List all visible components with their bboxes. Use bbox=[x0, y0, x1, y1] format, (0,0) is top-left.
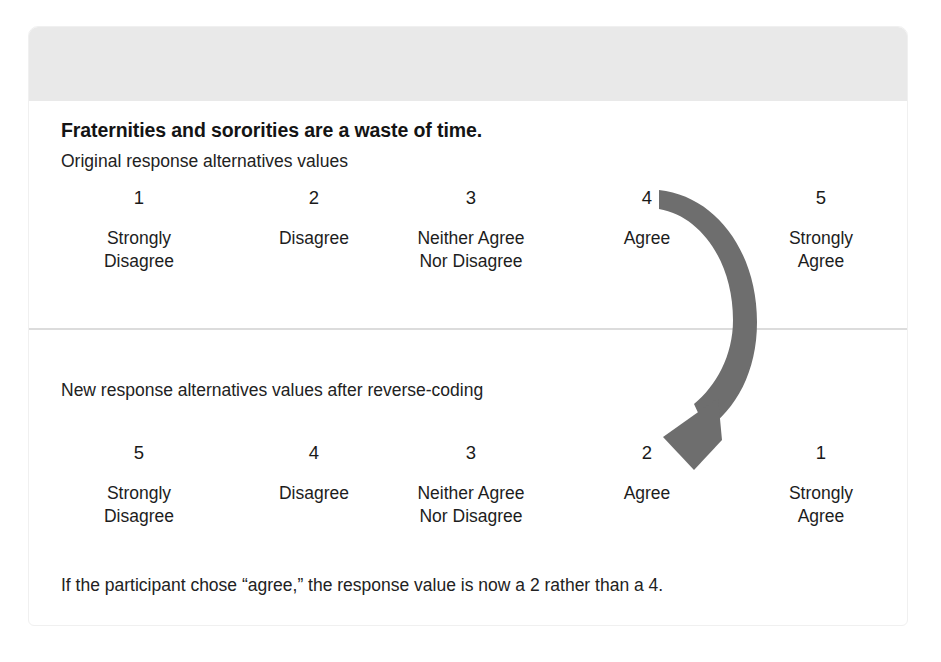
original-coding-section: Fraternities and sororities are a waste … bbox=[29, 101, 907, 328]
footnote-text: If the participant chose “agree,” the re… bbox=[61, 575, 663, 596]
anchor-line-1: Strongly bbox=[721, 482, 921, 505]
anchor-line-2: Agree bbox=[721, 505, 921, 528]
figure-root: Fraternities and sororities are a waste … bbox=[0, 0, 941, 662]
scale-value: 5 bbox=[721, 189, 921, 209]
scale-value: 2 bbox=[547, 444, 747, 464]
scale-value: 3 bbox=[371, 444, 571, 464]
scale-anchor: Agree bbox=[547, 482, 747, 505]
original-values-label: Original response alternatives values bbox=[61, 151, 348, 172]
question-statement: Fraternities and sororities are a waste … bbox=[61, 119, 482, 142]
scale-anchor: Strongly Agree bbox=[721, 482, 921, 528]
scale-anchor: Strongly Disagree bbox=[39, 227, 239, 273]
scale-anchor: Strongly Disagree bbox=[39, 482, 239, 528]
anchor-line-1: Strongly bbox=[39, 227, 239, 250]
anchor-line-2: Disagree bbox=[39, 250, 239, 273]
anchor-line-2: Disagree bbox=[39, 505, 239, 528]
scale-column-1: 5 Strongly Disagree bbox=[39, 444, 239, 528]
original-scale-row: 1 Strongly Disagree 2 Disagree bbox=[29, 189, 907, 309]
card-body: Fraternities and sororities are a waste … bbox=[29, 101, 907, 625]
scale-column-3: 3 Neither Agree Nor Disagree bbox=[371, 189, 571, 273]
anchor-line-1: Agree bbox=[547, 227, 747, 250]
scale-column-4: 4 Agree bbox=[547, 189, 747, 250]
scale-anchor: Neither Agree Nor Disagree bbox=[371, 227, 571, 273]
anchor-line-1: Neither Agree bbox=[371, 482, 571, 505]
anchor-line-1: Strongly bbox=[39, 482, 239, 505]
figure-card: Fraternities and sororities are a waste … bbox=[28, 26, 908, 626]
anchor-line-2: Agree bbox=[721, 250, 921, 273]
recoded-scale-row: 5 Strongly Disagree 4 Disagree bbox=[29, 444, 907, 564]
anchor-line-2: Nor Disagree bbox=[371, 250, 571, 273]
scale-value: 1 bbox=[39, 189, 239, 209]
anchor-line-1: Strongly bbox=[721, 227, 921, 250]
scale-anchor: Agree bbox=[547, 227, 747, 250]
scale-anchor: Strongly Agree bbox=[721, 227, 921, 273]
card-header-band bbox=[29, 27, 907, 101]
scale-anchor: Neither Agree Nor Disagree bbox=[371, 482, 571, 528]
scale-column-5: 5 Strongly Agree bbox=[721, 189, 921, 273]
scale-value: 1 bbox=[721, 444, 921, 464]
scale-column-5: 1 Strongly Agree bbox=[721, 444, 921, 528]
scale-column-4: 2 Agree bbox=[547, 444, 747, 505]
scale-column-3: 3 Neither Agree Nor Disagree bbox=[371, 444, 571, 528]
anchor-line-1: Agree bbox=[547, 482, 747, 505]
anchor-line-2: Nor Disagree bbox=[371, 505, 571, 528]
scale-value: 4 bbox=[547, 189, 747, 209]
recoded-values-label: New response alternatives values after r… bbox=[61, 380, 483, 401]
scale-column-1: 1 Strongly Disagree bbox=[39, 189, 239, 273]
reverse-coding-section: New response alternatives values after r… bbox=[29, 329, 907, 626]
anchor-line-1: Neither Agree bbox=[371, 227, 571, 250]
scale-value: 5 bbox=[39, 444, 239, 464]
scale-value: 3 bbox=[371, 189, 571, 209]
